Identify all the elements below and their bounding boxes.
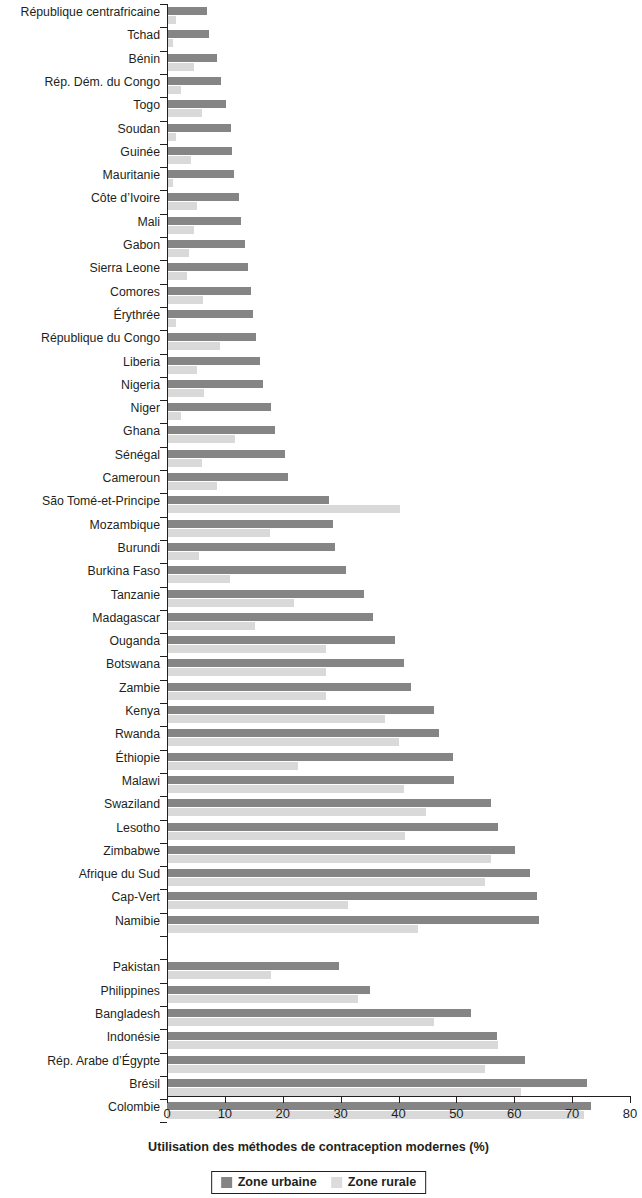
bar-rural: [167, 342, 220, 350]
bar-rural: [167, 692, 326, 700]
bar-rural: [167, 459, 202, 467]
bar-row: [167, 959, 630, 982]
bar-urban: [167, 287, 251, 295]
bar-urban: [167, 892, 537, 900]
bar-urban: [167, 77, 221, 85]
y-axis-tick: [160, 493, 167, 494]
y-axis-tick: [160, 517, 167, 518]
y-axis-tick: [160, 190, 167, 191]
bar-urban: [167, 473, 288, 481]
bar-rural: [167, 785, 404, 793]
bar-rural: [167, 505, 400, 513]
bar-urban: [167, 543, 335, 551]
bar-row: [167, 400, 630, 423]
bar-rural: [167, 86, 181, 94]
y-axis-label: Cap-Vert: [0, 891, 160, 904]
y-axis-tick: [160, 260, 167, 261]
y-axis-tick: [160, 74, 167, 75]
y-axis-tick: [160, 936, 167, 937]
bar-row: [167, 889, 630, 912]
bar-urban: [167, 170, 234, 178]
bar-urban: [167, 54, 217, 62]
bar-row: [167, 4, 630, 27]
bar-row: [167, 703, 630, 726]
legend-entry-rural: Zone rurale: [331, 1175, 417, 1189]
bar-urban: [167, 1079, 587, 1087]
bar-rural: [167, 202, 197, 210]
y-axis-label: Kenya: [0, 705, 160, 718]
y-axis-label: Philippines: [0, 985, 160, 998]
x-axis-tick-label: 10: [205, 1106, 245, 1121]
x-axis-tick-label: 80: [610, 1106, 642, 1121]
y-axis-tick: [160, 1122, 167, 1123]
y-axis-label: Burundi: [0, 542, 160, 555]
y-axis-label: République du Congo: [0, 332, 160, 345]
y-axis-label: Sierra Leone: [0, 262, 160, 275]
bar-urban: [167, 30, 209, 38]
legend-entry-urban: Zone urbaine: [221, 1175, 317, 1189]
bar-urban: [167, 217, 241, 225]
bar-rural: [167, 109, 202, 117]
bar-urban: [167, 426, 275, 434]
y-axis-label: Pakistan: [0, 961, 160, 974]
y-axis-tick: [160, 913, 167, 914]
bar-rural: [167, 925, 418, 933]
plot-area: [167, 4, 630, 1096]
y-axis-label: Mauritanie: [0, 169, 160, 182]
bar-rural: [167, 668, 326, 676]
bar-rural: [167, 878, 485, 886]
y-axis-label: Madagascar: [0, 612, 160, 625]
y-axis-tick: [160, 1076, 167, 1077]
y-axis-tick: [160, 354, 167, 355]
y-axis-label: Comores: [0, 286, 160, 299]
bar-row: [167, 843, 630, 866]
y-axis-tick: [160, 97, 167, 98]
y-axis-label: Nigeria: [0, 379, 160, 392]
bar-rural: [167, 1041, 498, 1049]
y-axis-tick: [160, 400, 167, 401]
x-axis-tick-label: 50: [436, 1106, 476, 1121]
bar-rural: [167, 16, 176, 24]
y-axis-tick: [160, 27, 167, 28]
y-axis-tick: [160, 470, 167, 471]
y-axis-tick: [160, 889, 167, 890]
bar-rural: [167, 738, 399, 746]
y-axis-label: Brésil: [0, 1078, 160, 1091]
bar-row: [167, 1053, 630, 1076]
bar-rural: [167, 63, 194, 71]
bar-rural: [167, 272, 187, 280]
bar-urban: [167, 706, 434, 714]
bar-urban: [167, 520, 333, 528]
bar-urban: [167, 986, 370, 994]
bar-urban: [167, 566, 346, 574]
y-axis-label: Éthiopie: [0, 752, 160, 765]
y-axis-label: Namibie: [0, 915, 160, 928]
legend-swatch-urban-icon: [221, 1177, 232, 1188]
bar-row: [167, 1029, 630, 1052]
y-axis-tick: [160, 447, 167, 448]
y-axis-label: Indonésie: [0, 1031, 160, 1044]
y-axis-label: Rép. Dém. du Congo: [0, 76, 160, 89]
legend-label-rural: Zone rurale: [348, 1175, 417, 1189]
y-axis-label: Tanzanie: [0, 589, 160, 602]
bar-row: [167, 354, 630, 377]
bar-rural: [167, 575, 230, 583]
bar-urban: [167, 823, 498, 831]
bar-row: [167, 750, 630, 773]
bar-row: [167, 144, 630, 167]
x-axis-tick: [225, 1096, 226, 1103]
y-axis-tick: [160, 1099, 167, 1100]
bar-rural: [167, 1018, 434, 1026]
bar-urban: [167, 240, 245, 248]
bar-urban: [167, 193, 239, 201]
bar-rural: [167, 832, 405, 840]
y-axis-tick: [160, 587, 167, 588]
bar-rural: [167, 366, 197, 374]
y-axis-label: Cameroun: [0, 472, 160, 485]
bar-row: [167, 913, 630, 936]
y-axis-label: Érythrée: [0, 309, 160, 322]
y-axis-tick: [160, 307, 167, 308]
y-axis-tick: [160, 959, 167, 960]
bar-urban: [167, 310, 253, 318]
